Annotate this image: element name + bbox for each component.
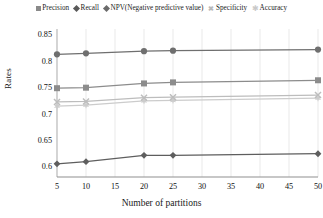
y-tick-label: 0.6 (42, 162, 52, 171)
data-point-circle-icon (83, 50, 89, 56)
x-tick-label: 5 (55, 182, 59, 191)
series-recall (54, 150, 322, 167)
data-point-diamond-icon (170, 152, 177, 159)
data-point-diamond-icon (315, 150, 322, 157)
data-point-circle-icon (54, 51, 60, 57)
series-npv-negative-predictive-value (54, 77, 321, 91)
data-point-circle-icon (170, 48, 176, 54)
x-tick-label: 10 (82, 182, 90, 191)
chart-figure: Precision Recall NPV(Negative predictive… (0, 0, 323, 218)
series-line (57, 80, 318, 88)
data-point-square-icon (83, 85, 89, 91)
data-point-square-icon (54, 85, 60, 91)
chart-canvas: 0.60.650.70.750.80.855101520253035404550 (0, 0, 323, 218)
data-point-square-icon (315, 77, 321, 83)
x-tick-label: 45 (285, 182, 293, 191)
series-line (57, 154, 318, 164)
y-tick-label: 0.7 (42, 110, 52, 119)
data-point-diamond-icon (141, 152, 148, 159)
y-tick-label: 0.65 (38, 136, 52, 145)
x-axis-title: Number of partitions (0, 198, 323, 208)
x-tick-label: 50 (314, 182, 322, 191)
y-tick-label: 0.85 (38, 30, 52, 39)
x-tick-label: 20 (140, 182, 148, 191)
data-point-square-icon (170, 79, 176, 85)
x-tick-label: 25 (169, 182, 177, 191)
y-tick-label: 0.8 (42, 57, 52, 66)
series-precision (54, 47, 321, 58)
x-tick-label: 30 (198, 182, 206, 191)
data-point-diamond-icon (54, 160, 61, 167)
data-point-circle-icon (315, 47, 321, 53)
series-line (57, 50, 318, 55)
x-tick-label: 40 (256, 182, 264, 191)
data-point-diamond-icon (83, 158, 90, 165)
x-tick-label: 15 (111, 182, 119, 191)
y-axis-title: Rates (3, 68, 13, 89)
series-line (57, 98, 318, 106)
data-point-circle-icon (141, 48, 147, 54)
x-tick-label: 35 (227, 182, 235, 191)
data-point-square-icon (141, 80, 147, 86)
plot-area: 0.60.650.70.750.80.855101520253035404550 (0, 0, 323, 218)
y-tick-label: 0.75 (38, 83, 52, 92)
